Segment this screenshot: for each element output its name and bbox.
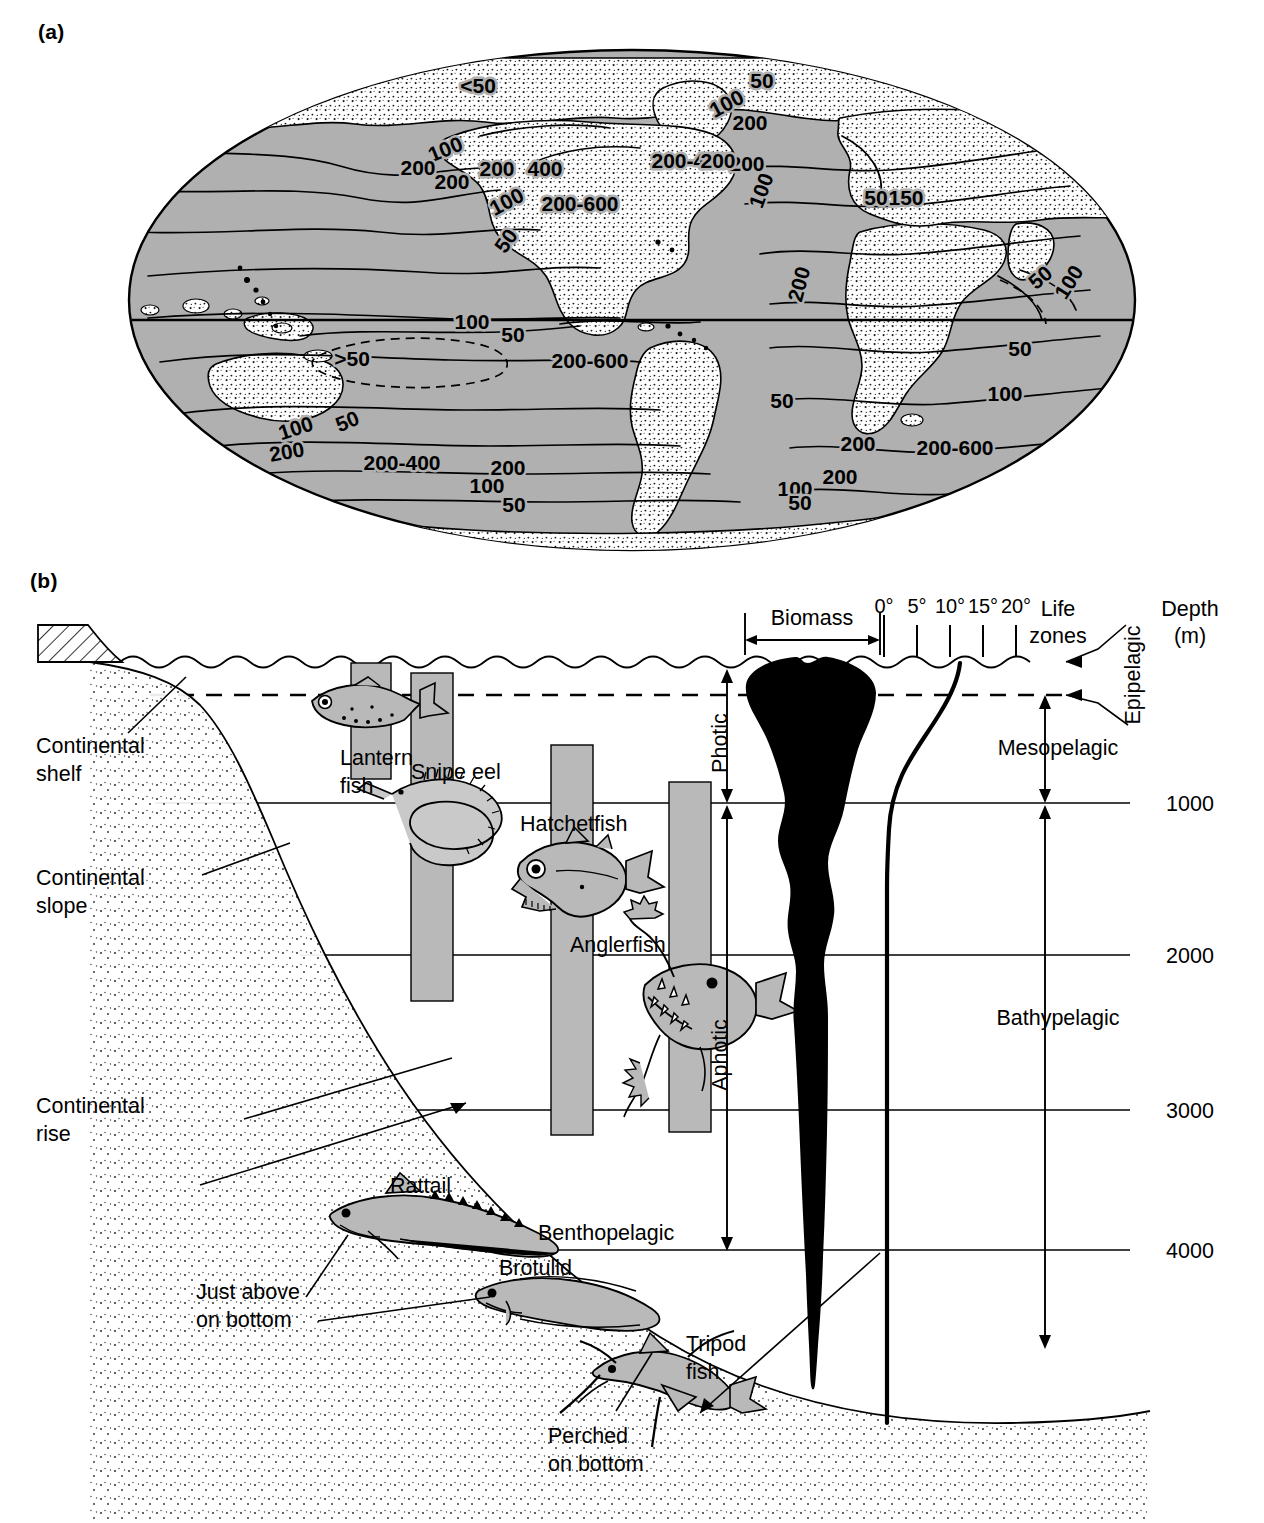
anglerfish-label: Anglerfish [570, 933, 666, 957]
contour-label: 50 [501, 323, 524, 346]
continental-shelf-label-line1: Continental [36, 734, 145, 758]
brotulid-label: Brotulid [499, 1256, 572, 1280]
continental-slope-label-line2: slope [36, 894, 87, 918]
contour-label: 200-400 [363, 451, 440, 474]
temperature-tick-label: 10° [935, 595, 965, 617]
life-zone-bathypelagic-label: Bathypelagic [996, 1006, 1119, 1030]
hatchetfish-label: Hatchetfish [520, 812, 628, 836]
contour-label: 200 [700, 149, 735, 172]
lantern-fish-label-line2: fish [340, 774, 373, 798]
lantern-fish-label-line1: Lantern [340, 746, 413, 770]
contour-label: 50 [502, 493, 525, 516]
contour-label: 150 [888, 186, 923, 209]
contour-label: 50 [864, 186, 887, 209]
contour-label: 50 [788, 491, 811, 514]
coastal-land [38, 625, 122, 662]
depth-header-line1: Depth [1161, 597, 1218, 621]
life-zones-header-line1: Life [1041, 597, 1076, 621]
seafloor-sediment [90, 662, 1150, 1520]
continental-rise-label-line2: rise [36, 1122, 71, 1146]
temperature-axis-ticks [884, 615, 1016, 657]
perched-on-bottom-label-line1: Perched [548, 1424, 628, 1448]
snipe-eel-label: Snipe eel [411, 760, 501, 784]
contour-label: 200 [840, 432, 875, 455]
sea-surface-line [38, 657, 1030, 668]
contour-label: 400 [527, 157, 562, 180]
contour-label: <50 [460, 74, 496, 97]
contour-label: 50 [750, 69, 773, 92]
contour-label: 100 [987, 382, 1022, 405]
biomass-curve [746, 657, 876, 1390]
contour-label: 50 [1008, 337, 1031, 360]
aphotic-zone-label: Aphotic [708, 1019, 732, 1091]
temperature-tick-label: 20° [1001, 595, 1031, 617]
biomass-axis-label: Biomass [771, 606, 853, 630]
contour-label: 100 [469, 474, 504, 497]
panel-a-world-productivity-map: <50<505050100100200200100100200200200200… [0, 18, 1264, 558]
contour-label: 200 [732, 111, 767, 134]
depth-scale-label: 4000 [1166, 1239, 1214, 1263]
contour-label: 200-600 [541, 192, 618, 215]
temperature-curve [887, 663, 960, 1423]
tripod-fish-label-line1: Tripod [686, 1332, 746, 1356]
bathypelagic-span-arrow [1039, 805, 1051, 1349]
contour-label: 200-600 [551, 349, 628, 372]
temperature-tick-label: 15° [968, 595, 998, 617]
depth-scale-label: 3000 [1166, 1099, 1214, 1123]
continental-shelf-label-line2: shelf [36, 762, 81, 786]
life-zones-header-line2: zones [1029, 624, 1086, 648]
contour-label: 200 [400, 156, 435, 179]
life-zone-epipelagic-label: Epipelagic [1121, 625, 1145, 724]
temperature-tick-label: 0° [874, 595, 893, 617]
contour-label: 200 [434, 170, 469, 193]
contour-label: 200-600 [916, 436, 993, 459]
just-above-bottom-label-line1: Just above [196, 1280, 300, 1304]
temperature-tick-label: 5° [907, 595, 926, 617]
contour-label: 200 [822, 465, 857, 488]
depth-scale-labels: 1000200030004000 [1166, 792, 1214, 1263]
life-zone-mesopelagic-label: Mesopelagic [998, 736, 1119, 760]
tripod-fish-label-line2: fish [686, 1360, 719, 1384]
contour-label: 200 [479, 157, 514, 180]
continental-slope-label-line1: Continental [36, 866, 145, 890]
continental-rise-label-line1: Continental [36, 1094, 145, 1118]
rattail-label: Rattail [390, 1174, 451, 1198]
contour-label: 100 [454, 310, 489, 333]
photic-zone-label: Photic [708, 713, 732, 773]
landmass-arctic [130, 58, 1140, 128]
depth-scale-label: 2000 [1166, 944, 1214, 968]
depth-header-line2: (m) [1174, 624, 1206, 648]
contour-label: 50 [770, 389, 793, 412]
depth-scale-label: 1000 [1166, 792, 1214, 816]
perched-on-bottom-label-line2: on bottom [548, 1452, 644, 1476]
contour-label: >50 [334, 347, 370, 370]
benthopelagic-label: Benthopelagic [538, 1221, 675, 1245]
just-above-bottom-label-line2: on bottom [196, 1308, 292, 1332]
temperature-tick-labels: 0°5°10°15°20° [874, 595, 1031, 617]
panel-b-depth-profile: Biomass 0°5°10°15°20° Life zones Depth (… [0, 585, 1264, 1520]
